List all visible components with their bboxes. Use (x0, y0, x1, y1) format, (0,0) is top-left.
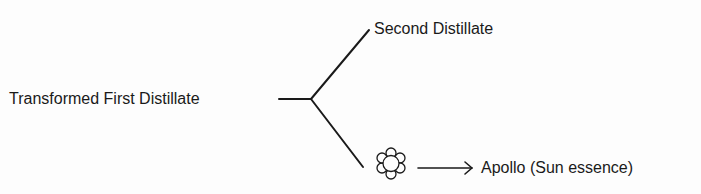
upper-branch-line (311, 30, 369, 99)
right-arrow (418, 162, 472, 174)
flower-icon (377, 148, 405, 179)
lower-branch-line (311, 99, 363, 167)
connector-lines (0, 0, 701, 194)
